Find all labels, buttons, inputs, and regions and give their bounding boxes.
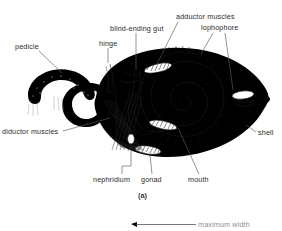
anatomy-diagram-canvas: pedicle hinge blind-ending gut adductor … (0, 0, 282, 231)
label-pedicle: pedicle (15, 42, 39, 51)
pedicle-structure (28, 69, 95, 116)
label-hinge: hinge (99, 39, 117, 48)
label-nephridium: nephridium (93, 175, 130, 184)
shell-outline (95, 48, 269, 157)
label-blind-ending-gut: blind-ending gut (110, 24, 164, 33)
label-adductor-muscles: adductor muscles (176, 12, 235, 21)
label-mouth: mouth (188, 175, 209, 184)
leader-nephridium (122, 147, 131, 174)
nephridium-sac (128, 134, 135, 144)
label-diductor-muscles: diductor muscles (2, 127, 59, 136)
label-lophophore: lophophore (201, 23, 238, 32)
pedicle-stalk (28, 69, 95, 104)
figure-caption: (a) (138, 191, 148, 200)
label-shell: shell (258, 128, 274, 137)
leader-gonad (150, 155, 152, 174)
label-maximum-width: maximum width (198, 220, 250, 229)
leader-pedicle (39, 51, 62, 73)
label-gonad: gonad (141, 175, 162, 184)
leader-lophophore-left (201, 33, 213, 54)
brachiopod-anatomy-figure: pedicle hinge blind-ending gut adductor … (0, 0, 282, 231)
partial-lower-figure: maximum width (131, 220, 250, 229)
